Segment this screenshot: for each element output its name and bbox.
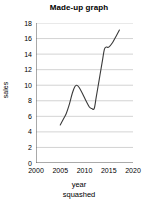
x-axis-label: year squashed <box>0 180 158 200</box>
plot-svg <box>36 23 133 163</box>
x-axis-label-line1: year <box>72 180 87 189</box>
y-tick-label: 14 <box>16 51 32 58</box>
y-tick-label: 16 <box>16 35 32 42</box>
x-axis-tick-labels: 20002005201020152020 <box>0 167 158 179</box>
gridlines <box>36 23 133 147</box>
y-tick-label: 10 <box>16 82 32 89</box>
axis-lines <box>36 23 133 163</box>
y-tick-label: 18 <box>16 20 32 27</box>
chart-figure: Made-up graph sales 024681012141618 2000… <box>0 0 158 204</box>
y-tick-label: 8 <box>16 97 32 104</box>
y-tick-label: 0 <box>16 160 32 167</box>
y-tick-label: 6 <box>16 113 32 120</box>
y-tick-label: 2 <box>16 144 32 151</box>
y-tick-label: 12 <box>16 66 32 73</box>
data-series-line <box>60 30 119 125</box>
plot-area <box>36 23 133 163</box>
y-axis-label: sales <box>2 70 10 110</box>
y-tick-label: 4 <box>16 128 32 135</box>
x-tick-label: 2020 <box>118 167 148 174</box>
x-axis-label-line2: squashed <box>0 190 158 200</box>
